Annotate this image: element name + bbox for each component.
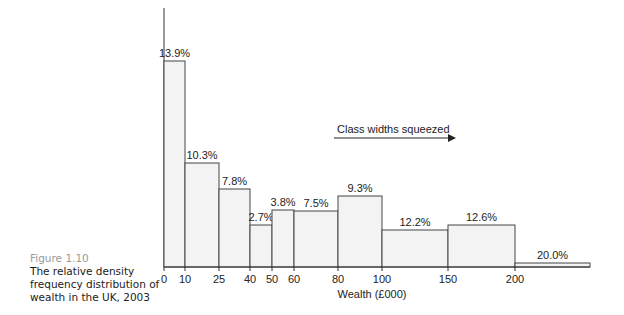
x-tick-label: 150 xyxy=(439,273,457,285)
histogram-bar xyxy=(219,189,250,267)
x-axis-label: Wealth (£000) xyxy=(338,288,407,300)
histogram-bar xyxy=(185,163,219,267)
histogram-bar xyxy=(294,211,338,267)
bar-value-label: 9.3% xyxy=(347,182,372,194)
bar-value-label: 12.2% xyxy=(399,216,430,228)
x-tick-label: 0 xyxy=(161,273,167,285)
histogram-chart: 13.9%10.3%7.8%2.7%3.8%7.5%9.3%12.2%12.6%… xyxy=(0,0,624,315)
histogram-bar xyxy=(272,210,294,267)
arrow-right-icon xyxy=(448,134,456,142)
bar-value-label: 10.3% xyxy=(186,149,217,161)
histogram-bar xyxy=(164,61,185,267)
histogram-bar xyxy=(338,196,382,267)
histogram-bar xyxy=(250,225,272,267)
histogram-bar xyxy=(382,230,448,267)
x-tick-label: 10 xyxy=(179,273,191,285)
x-tick-label: 40 xyxy=(244,273,256,285)
annotation-text: Class widths squeezed xyxy=(337,123,450,135)
x-tick-label: 60 xyxy=(288,273,300,285)
x-tick-label: 25 xyxy=(213,273,225,285)
bar-value-label: 20.0% xyxy=(537,249,568,261)
x-tick-label: 80 xyxy=(332,273,344,285)
bar-value-label: 13.9% xyxy=(159,47,190,59)
histogram-bar xyxy=(448,225,515,267)
x-tick-label: 100 xyxy=(373,273,391,285)
bar-value-label: 3.8% xyxy=(270,196,295,208)
bar-value-label: 7.5% xyxy=(303,197,328,209)
x-tick-label: 50 xyxy=(266,273,278,285)
x-tick-label: 200 xyxy=(506,273,524,285)
bar-value-label: 7.8% xyxy=(222,175,247,187)
histogram-bar xyxy=(515,263,590,267)
bar-value-label: 12.6% xyxy=(466,211,497,223)
bar-value-label: 2.7% xyxy=(248,211,273,223)
